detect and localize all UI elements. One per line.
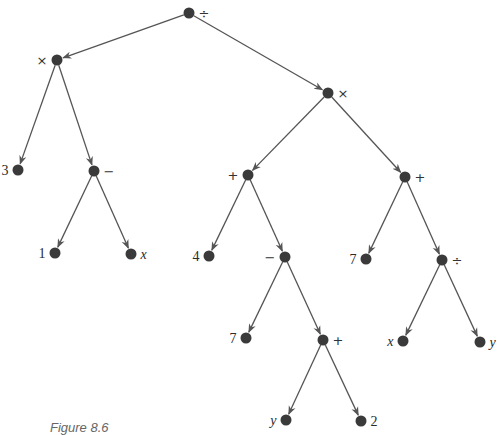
tree-node: − (89, 164, 115, 179)
node-label: + (415, 170, 426, 185)
tree-node: + (400, 170, 426, 185)
node-dot (280, 252, 291, 263)
tree-edge-arrow (253, 97, 325, 170)
node-dot (398, 336, 409, 347)
tree-node: 7 (230, 331, 252, 346)
tree-node: x (126, 247, 148, 262)
node-label: 4 (193, 249, 200, 264)
tree-node: ÷ (437, 253, 463, 268)
node-dot (361, 254, 372, 265)
node-label: + (333, 333, 344, 348)
node-label: y (488, 335, 497, 350)
tree-node: ÷ (184, 6, 210, 21)
node-label: ÷ (199, 6, 210, 21)
tree-edge-arrow (63, 15, 184, 58)
figure-caption: Figure 8.6 (50, 420, 109, 435)
tree-node: × (323, 86, 349, 101)
tree-node: 7 (350, 252, 372, 267)
node-label: y (268, 413, 277, 428)
node-dot (52, 55, 63, 66)
node-label: − (104, 164, 115, 179)
node-label: − (265, 250, 276, 265)
node-label: × (37, 53, 48, 68)
node-label: + (228, 168, 239, 183)
tree-node: + (318, 333, 344, 348)
tree-edge-arrow (194, 16, 323, 90)
node-dot (400, 172, 411, 183)
node-dot (475, 337, 486, 348)
tree-edge-arrow (287, 262, 320, 334)
tree-node: + (228, 168, 254, 183)
tree-node: y (475, 335, 497, 350)
node-dot (281, 415, 292, 426)
node-label: x (140, 247, 148, 262)
node-dot (241, 333, 252, 344)
tree-node: 2 (356, 414, 378, 429)
node-dot (13, 165, 24, 176)
node-label: x (386, 334, 394, 349)
tree-edge-arrow (407, 182, 439, 254)
tree-edge-arrow (325, 345, 358, 415)
tree-edge-arrow (332, 97, 401, 172)
tree-edge-arrow (96, 176, 128, 248)
node-dot (323, 88, 334, 99)
tree-node: x (386, 334, 408, 349)
node-dot (243, 170, 254, 181)
node-dot (126, 249, 137, 260)
node-label: 7 (230, 331, 237, 346)
node-label: ÷ (452, 253, 463, 268)
tree-node: 4 (193, 249, 215, 264)
node-label: 7 (350, 252, 357, 267)
tree-edge-arrow (249, 262, 283, 332)
tree-edge-arrow (250, 180, 282, 251)
node-label: 1 (39, 246, 46, 261)
tree-edges (20, 15, 477, 415)
node-label: × (338, 86, 349, 101)
node-dot (437, 255, 448, 266)
tree-edge-arrow (289, 345, 321, 414)
tree-node: y (268, 413, 291, 428)
tree-edge-arrow (59, 65, 92, 165)
node-dot (184, 8, 195, 19)
tree-edge-arrow (58, 176, 92, 247)
tree-edge-arrow (444, 265, 477, 336)
tree-node: 1 (39, 246, 61, 261)
node-dot (204, 251, 215, 262)
tree-nodes: ÷××3−++1x4−7÷7+xyy2 (2, 6, 497, 429)
node-dot (89, 166, 100, 177)
node-label: 2 (371, 414, 378, 429)
node-label: 3 (2, 163, 9, 178)
node-dot (318, 335, 329, 346)
tree-node: 3 (2, 163, 24, 178)
node-dot (50, 248, 61, 259)
tree-edge-arrow (20, 65, 55, 164)
tree-edge-arrow (369, 182, 403, 253)
tree-edge-arrow (212, 180, 246, 250)
tree-edge-arrow (406, 265, 440, 335)
tree-node: − (265, 250, 291, 265)
node-dot (356, 416, 367, 427)
